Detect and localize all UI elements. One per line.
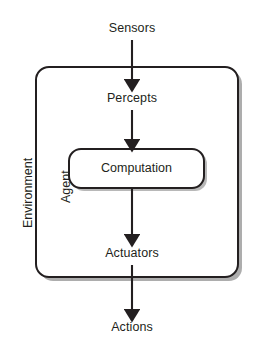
- computation-label: Computation: [101, 162, 172, 175]
- sensors-label: Sensors: [0, 22, 256, 35]
- actuators-label: Actuators: [0, 247, 256, 260]
- actions-label: Actions: [0, 321, 256, 334]
- computation-node: Computation: [68, 148, 205, 189]
- agent-environment-diagram: Environment Agent Computation Sensors Pe…: [0, 0, 256, 350]
- percepts-label: Percepts: [0, 92, 256, 105]
- environment-label: Environment: [22, 158, 35, 228]
